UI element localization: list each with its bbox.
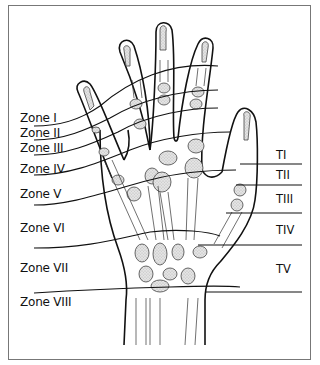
zone-7-label: Zone VII [20, 262, 68, 274]
zone-6-label: Zone VI [20, 222, 65, 234]
hand-zones-diagram: Zone I Zone II Zone III Zone IV Zone V Z… [0, 0, 320, 365]
zone-3-label: Zone III [20, 142, 63, 154]
hand-illustration [0, 0, 320, 365]
thumb-zone-4-label: TIV [276, 225, 294, 237]
thumb-zone-5-label: TV [276, 264, 291, 276]
zone-8-label: Zone VIII [20, 296, 71, 308]
zone-5-label: Zone V [20, 188, 61, 200]
thumb-zone-3-label: TIII [276, 194, 293, 206]
zone-2-label: Zone II [20, 127, 60, 139]
thumb-zone-2-label: TII [276, 170, 290, 182]
zone-1-label: Zone I [20, 112, 57, 124]
thumb-zone-1-label: TI [276, 150, 286, 162]
zone-4-label: Zone IV [20, 163, 65, 175]
